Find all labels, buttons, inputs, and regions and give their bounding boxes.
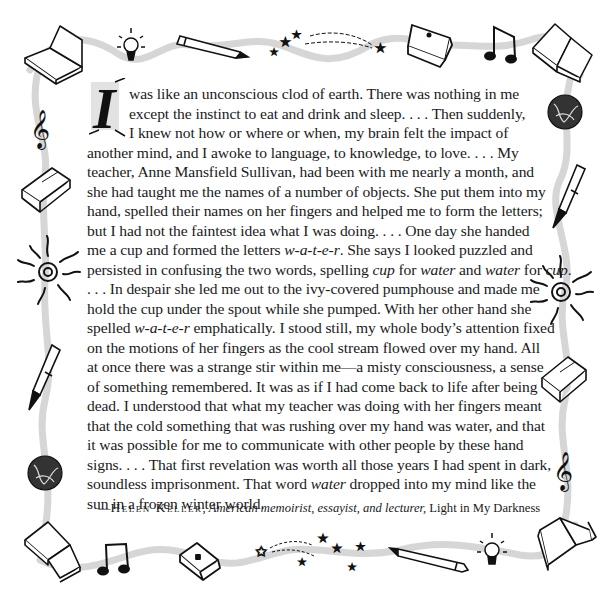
text-run: dropped into my mind like the — [346, 475, 536, 492]
svg-text:𝄞: 𝄞 — [30, 108, 50, 150]
quote-line: persisted in confusing the two words, sp… — [87, 260, 532, 280]
open-book-icon — [25, 26, 82, 84]
emphasized-word: water — [485, 261, 520, 278]
svg-text:★: ★ — [292, 29, 301, 40]
text-run: and — [455, 261, 485, 278]
quote-line: me a cup and formed the letters w-a-t-e-… — [87, 240, 532, 260]
svg-text:★: ★ — [318, 532, 328, 545]
quote-line: another mind, and I awoke to language, t… — [87, 143, 532, 163]
text-run: she had taught me the names of a number … — [87, 183, 546, 200]
treble-clef-icon: 𝄞 — [30, 108, 50, 150]
quote-line: at once there was a strange stir within … — [87, 357, 532, 377]
svg-text:★: ★ — [270, 47, 278, 57]
text-run: for — [395, 261, 420, 278]
text-run: persisted in confusing the two words, sp… — [87, 261, 372, 278]
text-run: I knew not how or where or when, my brai… — [129, 124, 508, 141]
svg-text:★: ★ — [375, 41, 386, 55]
svg-text:★: ★ — [332, 542, 342, 555]
text-run: but I had not the faintest idea what I w… — [87, 222, 530, 239]
quote-text: was like an unconscious clod of earth. T… — [87, 84, 532, 513]
quote-line: dead. I understood that what my teacher … — [87, 396, 532, 416]
text-run: at once there was a strange stir within … — [87, 358, 544, 375]
emphasized-word: cup — [546, 261, 568, 278]
text-run: hold the cup under the spout while she p… — [87, 300, 531, 317]
text-run: was like an unconscious clod of earth. T… — [129, 85, 519, 102]
text-run: spelled — [87, 319, 134, 336]
attribution: —Helen Keller, American memoirist, essay… — [98, 500, 540, 516]
quote-line: . . . In despair she led me out to the i… — [87, 279, 532, 299]
quote-line: soundless imprisonment. That word water … — [87, 474, 532, 494]
quote-line: teacher, Anne Mansfield Sullivan, had be… — [87, 162, 532, 182]
closed-book-icon — [408, 25, 452, 67]
text-run: of something remembered. It was as if I … — [87, 378, 537, 395]
open-book-icon — [25, 522, 80, 582]
emphasized-word: water — [311, 475, 346, 492]
author-description: American memoirist, essayist, and lectur… — [209, 501, 426, 515]
text-run: except the instinct to eat and drink and… — [129, 105, 525, 122]
quote-line: spelled w-a-t-e-r emphatically. I stood … — [87, 318, 532, 338]
text-run: for — [520, 261, 545, 278]
text-run: . She says I looked puzzled and — [340, 241, 533, 258]
svg-text:★: ★ — [280, 35, 291, 49]
quote-line: it was possible for me to communicate wi… — [87, 435, 532, 455]
emphasized-word: water — [420, 261, 455, 278]
text-run: . . . In despair she led me out to the i… — [87, 280, 540, 297]
text-run: another mind, and I awoke to language, t… — [87, 144, 519, 161]
text-run: it was possible for me to communicate wi… — [87, 436, 524, 453]
attribution-dash: — — [98, 501, 111, 515]
source-title: Light in My Darkness — [426, 501, 540, 515]
text-run: signs. . . . That first revelation was w… — [87, 456, 551, 473]
quote-line: of something remembered. It was as if I … — [87, 377, 532, 397]
svg-text:✩: ✩ — [256, 544, 267, 559]
quote-page: ★ ★ ★ ★ 𝄞 — [0, 0, 608, 599]
svg-text:I: I — [92, 78, 118, 138]
text-run: . — [568, 261, 572, 278]
svg-text:𝄞: 𝄞 — [553, 450, 573, 492]
emphasized-word: w-a-t-e-r — [284, 241, 339, 258]
quote-line: but I had not the faintest idea what I w… — [87, 221, 532, 241]
globe-icon — [28, 456, 62, 490]
quote-body: I was like an unconscious clod of earth.… — [87, 84, 532, 513]
text-run: that the cold something that was rushing… — [87, 417, 545, 434]
text-run: teacher, Anne Mansfield Sullivan, had be… — [87, 163, 534, 180]
open-book-icon — [538, 518, 596, 570]
text-run: dead. I understood that what my teacher … — [87, 397, 542, 414]
treble-clef-icon: 𝄞 — [553, 450, 573, 492]
pencil-icon — [177, 36, 248, 58]
text-run: hand, spelled their names on her fingers… — [87, 202, 543, 219]
quote-line: except the instinct to eat and drink and… — [87, 104, 532, 124]
quote-line: she had taught me the names of a number … — [87, 182, 532, 202]
pencil-icon — [390, 548, 468, 572]
text-run: emphatically. I stood still, my whole bo… — [190, 319, 555, 336]
open-book-icon — [533, 24, 592, 82]
text-run: soundless imprisonment. That word — [87, 475, 311, 492]
emphasized-word: cup — [372, 261, 394, 278]
emphasized-word: w-a-t-e-r — [134, 319, 189, 336]
text-run: on the motions of her fingers as the coo… — [87, 339, 540, 356]
quote-line: I knew not how or where or when, my brai… — [87, 123, 532, 143]
svg-text:★: ★ — [298, 557, 306, 567]
author-name: Helen Keller — [111, 500, 203, 515]
quote-line: signs. . . . That first revelation was w… — [87, 455, 532, 475]
quote-line: on the motions of her fingers as the coo… — [87, 338, 532, 358]
drop-cap-initial: I — [89, 78, 129, 138]
closed-book-icon — [180, 543, 220, 580]
svg-text:★: ★ — [356, 541, 365, 552]
svg-text:★: ★ — [348, 562, 356, 572]
globe-icon — [548, 95, 582, 129]
shooting-stars-icon: ★ ★ ★ ★ — [270, 29, 386, 57]
quote-line: hold the cup under the spout while she p… — [87, 299, 532, 319]
text-run: me a cup and formed the letters — [87, 241, 284, 258]
quote-line: that the cold something that was rushing… — [87, 416, 532, 436]
quote-line: was like an unconscious clod of earth. T… — [87, 84, 532, 104]
quote-line: hand, spelled their names on her fingers… — [87, 201, 532, 221]
